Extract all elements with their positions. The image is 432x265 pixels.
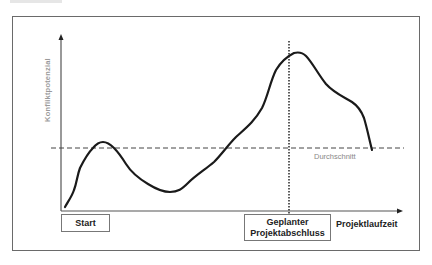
y-axis-arrow-icon [59, 34, 64, 40]
planned-end-label-line2: Projektabschluss [245, 228, 330, 239]
start-marker: Start [61, 214, 110, 232]
start-label: Start [75, 218, 96, 228]
conflict-curve [65, 52, 372, 207]
y-axis-label: Konfliktpotenzial [43, 58, 52, 122]
average-label: Durchschnitt [314, 152, 356, 161]
x-axis-arrow-icon [397, 209, 403, 214]
x-axis-label: Projektlaufzeit [336, 219, 398, 229]
planned-end-marker: Geplanter Projektabschluss [244, 214, 331, 241]
planned-end-label-line1: Geplanter [245, 217, 330, 228]
